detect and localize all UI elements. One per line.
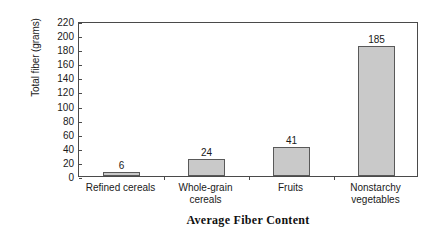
y-axis-tick-label: 40 [63,145,79,155]
bar: 41 [273,147,310,176]
x-axis-category-label-line: cereals [163,194,248,206]
x-axis-category-label: Nonstarchyvegetables [333,182,418,205]
y-axis-tick-label: 80 [63,117,79,127]
x-axis-category-label-line: Whole-grain [163,182,248,194]
y-axis-tick-label: 140 [57,74,79,84]
y-axis-tick-mark [79,108,82,109]
y-axis-tick-label: 120 [57,88,79,98]
x-axis-tick-mark [249,176,250,180]
x-axis-tick-mark [334,176,335,180]
y-axis-tick-label: 160 [57,60,79,70]
x-axis-category-label-line: Refined cereals [78,182,163,194]
y-axis-tick-mark [79,150,82,151]
y-axis-tick-label: 220 [57,18,79,28]
bar: 6 [103,172,140,176]
x-axis-tick-mark [164,176,165,180]
y-axis-tick-label: 60 [63,131,79,141]
bar: 24 [188,159,225,176]
y-axis-tick-mark [79,122,82,123]
bar-value-label: 185 [368,34,385,45]
x-axis-category-label-line: Nonstarchy [333,182,418,194]
y-axis-tick-mark [79,178,82,179]
bar-value-label: 24 [201,147,212,158]
y-axis-tick-label: 100 [57,103,79,113]
x-axis-category-label-line: vegetables [333,194,418,206]
y-axis-tick-label: 200 [57,32,79,42]
y-axis-tick-mark [79,51,82,52]
y-axis-tick-mark [79,164,82,165]
y-axis-tick-mark [79,79,82,80]
bar-value-label: 41 [286,135,297,146]
bar-value-label: 6 [119,160,125,171]
x-axis-category-label: Refined cereals [78,182,163,194]
y-axis-tick-mark [79,136,82,137]
plot-area: 220200180160140120100806040200 62441185 [78,22,418,177]
y-axis-tick-mark [79,93,82,94]
chart-title: Average Fiber Content [78,213,418,228]
x-axis-category-label-line: Fruits [248,182,333,194]
y-axis-tick-label: 180 [57,46,79,56]
y-axis-tick-mark [79,65,82,66]
y-axis-tick-mark [79,23,82,24]
bar-chart-figure: Total fiber (grams) 22020018016014012010… [0,0,438,244]
y-axis-title: Total fiber (grams) [30,0,41,138]
x-axis-category-label: Whole-graincereals [163,182,248,205]
x-axis-category-label: Fruits [248,182,333,194]
y-axis-tick-label: 20 [63,159,79,169]
y-axis-tick-mark [79,37,82,38]
bar: 185 [358,46,395,176]
